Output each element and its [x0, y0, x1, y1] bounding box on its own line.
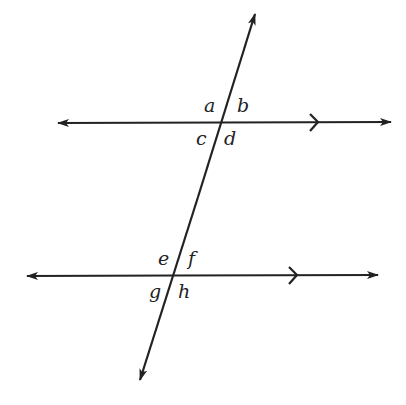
bottom-parallel-line [27, 267, 378, 284]
angle-label-g: g [149, 280, 161, 302]
angle-label-d: d [224, 127, 236, 149]
angle-label-e: e [158, 247, 169, 269]
angle-label-h: h [178, 280, 190, 302]
angle-label-f: f [186, 247, 198, 269]
transversal-line [140, 14, 255, 380]
angle-label-a: a [204, 94, 215, 116]
parallel-lines-diagram: a b c d e f g h [0, 0, 406, 405]
angle-label-c: c [196, 127, 207, 149]
angle-label-b: b [237, 94, 249, 116]
